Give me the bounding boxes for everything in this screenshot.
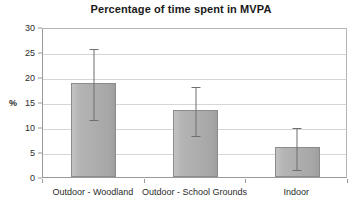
error-cap-upper	[89, 49, 98, 50]
plot-area	[42, 28, 347, 178]
error-cap-lower	[191, 136, 200, 137]
x-tick-label: Outdoor - School Grounds	[142, 187, 247, 197]
error-cap-lower	[293, 170, 302, 171]
error-cap-upper	[293, 128, 302, 129]
error-cap-lower	[89, 120, 98, 121]
y-axis: 051015202530%	[0, 28, 42, 178]
bar-chart: Percentage of time spent in MVPA 0510152…	[0, 0, 362, 210]
y-tick-label: 10	[25, 123, 35, 133]
error-bar	[195, 87, 196, 136]
y-tick-label: 20	[25, 73, 35, 83]
error-cap-upper	[191, 87, 200, 88]
x-tick-mark	[347, 179, 348, 183]
x-tick-label: Outdoor - Woodland	[52, 187, 133, 197]
bar-group[interactable]	[71, 29, 116, 177]
error-bar	[297, 128, 298, 170]
y-tick-label: 15	[25, 98, 35, 108]
bar-group[interactable]	[173, 29, 218, 177]
y-tick-label: 5	[30, 148, 35, 158]
y-axis-title: %	[9, 98, 17, 108]
x-tick-mark	[42, 179, 43, 183]
x-axis: Outdoor - WoodlandOutdoor - School Groun…	[42, 179, 347, 209]
y-tick-label: 30	[25, 23, 35, 33]
error-bar	[93, 49, 94, 120]
x-tick-mark	[144, 179, 145, 183]
bar-group[interactable]	[275, 29, 320, 177]
x-tick-mark	[245, 179, 246, 183]
y-tick-label: 0	[30, 173, 35, 183]
chart-title: Percentage of time spent in MVPA	[0, 3, 362, 15]
x-tick-label: Indoor	[283, 187, 309, 197]
y-tick-label: 25	[25, 48, 35, 58]
